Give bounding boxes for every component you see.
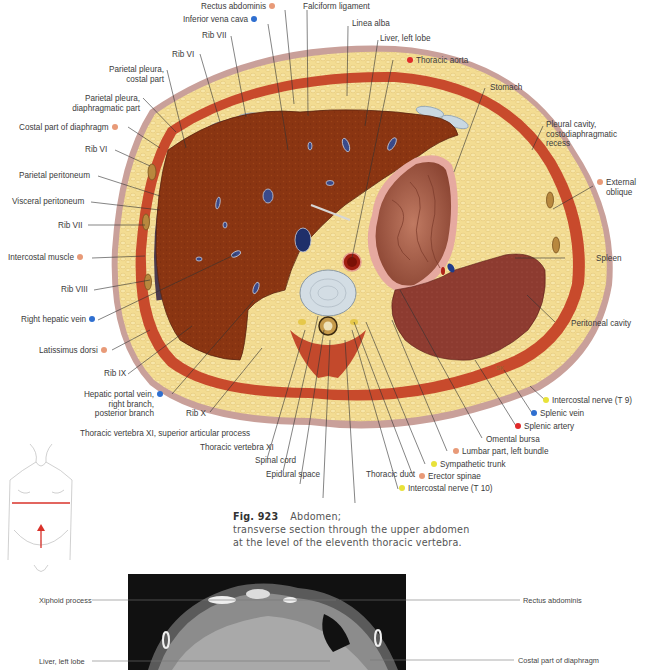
- label-parietal-pleura-diaphragmatic: Parietal pleura,diaphragmatic part: [60, 94, 140, 113]
- ct-label-rectus-abdominis: Rectus abdominis: [523, 596, 582, 605]
- label-thoracic-duct: Thoracic duct: [366, 470, 415, 480]
- vertebral-body: [300, 270, 356, 316]
- label-external-oblique: Externaloblique: [594, 178, 636, 197]
- label-rib-vii-top: Rib VII: [202, 31, 227, 41]
- label-thoracic-vertebra-xi-sap: Thoracic vertebra XI, superior articular…: [80, 429, 250, 439]
- label-hepatic-portal-vein: Hepatic portal vein,right branch,posteri…: [70, 390, 166, 419]
- arrow-head-icon: [37, 524, 45, 531]
- caption-line-2: transverse section through the upper abd…: [233, 523, 470, 536]
- figure-number: Fig. 923: [233, 511, 278, 522]
- label-epidural-space: Epidural space: [266, 470, 320, 480]
- ct-label-xiphoid-process: Xiphoid process: [39, 596, 92, 605]
- artery-dot-icon: [515, 423, 521, 429]
- vein-dot-icon: [531, 410, 537, 416]
- muscle-dot-icon: [112, 124, 118, 130]
- label-intercostal-nerve-t10: Intercostal nerve (T 10): [396, 484, 493, 494]
- ct-label-liver-left-lobe: Liver, left lobe: [39, 657, 85, 666]
- label-splenic-vein: Splenic vein: [528, 409, 584, 419]
- artery-dot-icon: [407, 57, 413, 63]
- label-liver-left-lobe: Liver, left lobe: [380, 34, 431, 44]
- label-splenic-artery: Splenic artery: [512, 422, 574, 432]
- figure-title: Abdomen;: [290, 511, 341, 522]
- caption-line-3: at the level of the eleventh thoracic ve…: [233, 536, 470, 549]
- label-rib-vii-left: Rib VII: [58, 221, 83, 231]
- label-falciform-ligament: Falciform ligament: [303, 2, 370, 12]
- label-erector-spinae: Erector spinae: [416, 472, 481, 482]
- nerve-dot-icon: [431, 461, 437, 467]
- label-rib-ix: Rib IX: [104, 369, 126, 379]
- label-spleen: Spleen: [596, 254, 622, 264]
- label-thoracic-aorta: Thoracic aorta: [404, 56, 468, 66]
- label-rectus-abdominis: Rectus abdominis: [201, 2, 278, 12]
- muscle-dot-icon: [597, 179, 603, 185]
- nerve-dot-icon: [399, 485, 405, 491]
- label-thoracic-vertebra-xi: Thoracic vertebra XI: [200, 443, 274, 453]
- label-parietal-pleura-costal: Parietal pleura,costal part: [100, 65, 164, 84]
- ct-scan-image: [128, 574, 406, 670]
- label-rib-viii: Rib VIII: [61, 285, 88, 295]
- label-rib-vi-left: Rib VI: [85, 145, 107, 155]
- vein-dot-icon: [89, 316, 95, 322]
- label-visceral-peritoneum: Visceral peritoneum: [12, 197, 84, 207]
- label-lumbar-part: Lumbar part, left bundle: [450, 447, 548, 457]
- ct-label-costal-part-diaphragm: Costal part of diaphragm: [518, 656, 599, 665]
- label-omental-bursa: Omental bursa: [486, 435, 540, 445]
- artist-initials: SK: [496, 365, 504, 371]
- label-latissimus-dorsi: Latissimus dorsi: [39, 346, 110, 356]
- label-costal-part-diaphragm: Costal part of diaphragm: [19, 123, 121, 133]
- nerve-dot-icon: [543, 397, 549, 403]
- label-intercostal-muscle: Intercostal muscle: [8, 253, 86, 263]
- vein-dot-icon: [157, 391, 163, 397]
- label-rib-x: Rib X: [186, 409, 206, 419]
- label-peritoneal-cavity: Peritoneal cavity: [571, 319, 631, 329]
- label-rib-vi-top: Rib VI: [172, 50, 194, 60]
- label-right-hepatic-vein: Right hepatic vein: [21, 315, 98, 325]
- label-linea-alba: Linea alba: [352, 19, 390, 29]
- muscle-dot-icon: [453, 448, 459, 454]
- figure-caption: Fig. 923Abdomen; transverse section thro…: [233, 510, 470, 549]
- muscle-dot-icon: [269, 3, 275, 9]
- vein-dot-icon: [251, 16, 257, 22]
- label-intercostal-nerve-t9: Intercostal nerve (T 9): [540, 396, 632, 406]
- label-sympathetic-trunk: Sympathetic trunk: [428, 460, 506, 470]
- label-stomach: Stomach: [490, 83, 522, 93]
- label-inferior-vena-cava: Inferior vena cava: [183, 15, 260, 25]
- muscle-dot-icon: [77, 254, 83, 260]
- label-parietal-peritoneum: Parietal peritoneum: [19, 171, 90, 181]
- muscle-dot-icon: [419, 473, 425, 479]
- label-spinal-cord: Spinal cord: [255, 456, 296, 466]
- body-orientation-thumbnail: [8, 444, 72, 572]
- label-pleural-cavity: Pleural cavity,costodiaphragmaticrecess: [546, 120, 617, 149]
- muscle-dot-icon: [101, 347, 107, 353]
- spinal-cord: [324, 322, 333, 331]
